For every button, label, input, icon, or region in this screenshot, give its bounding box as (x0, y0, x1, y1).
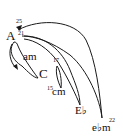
node-C: C (39, 67, 48, 80)
node-cm: cm (52, 86, 65, 97)
number-22: 22 (109, 117, 115, 123)
node-am: am (23, 51, 36, 62)
node-A: A (6, 29, 15, 42)
number-17: 17 (53, 57, 59, 63)
number-25: 25 (16, 18, 22, 24)
node-Eb: E♭ (75, 105, 87, 116)
node-ebm: e♭m (92, 122, 111, 133)
number-21: 21 (18, 30, 24, 36)
